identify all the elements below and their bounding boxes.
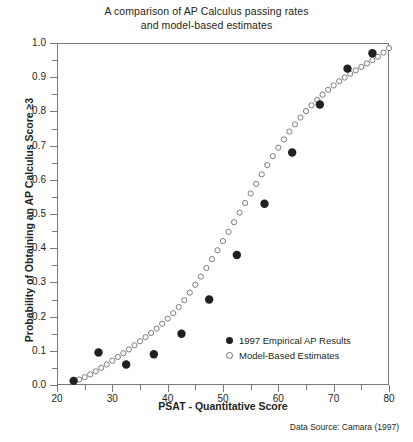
data-point-model-estimate [187, 290, 192, 295]
data-point-empirical [150, 350, 158, 358]
data-point-empirical [69, 377, 77, 385]
x-tick-minor [195, 385, 196, 390]
data-point-model-estimate [160, 321, 165, 326]
data-point-model-estimate [126, 347, 131, 352]
chart-figure: A comparison of AP Calculus passing rate… [0, 0, 413, 442]
data-point-model-estimate [110, 358, 115, 363]
x-tick-minor [361, 385, 362, 390]
data-point-model-estimate [287, 129, 292, 134]
x-tick-minor [85, 385, 86, 390]
y-tick-major [50, 282, 57, 283]
data-point-model-estimate [254, 181, 259, 186]
data-point-model-estimate [209, 257, 214, 262]
data-point-empirical [260, 200, 268, 208]
data-point-empirical [288, 148, 296, 156]
data-point-model-estimate [99, 365, 104, 370]
data-point-model-estimate [309, 103, 314, 108]
data-point-model-estimate [176, 304, 181, 309]
source-note: Data Source: Camara (1997) [290, 422, 399, 432]
data-point-model-estimate [154, 326, 159, 331]
data-point-model-estimate [386, 46, 391, 51]
open-circle-icon [222, 352, 236, 359]
chart-title: A comparison of AP Calculus passing rate… [0, 5, 413, 32]
x-tick-minor [251, 385, 252, 390]
data-point-empirical [177, 330, 185, 338]
data-point-model-estimate [226, 229, 231, 234]
x-tick-minor [306, 385, 307, 390]
y-axis-label: Probability of Obtaining an AP Calculus … [23, 49, 35, 391]
y-tick-major [50, 77, 57, 78]
data-point-model-estimate [326, 87, 331, 92]
y-tick-major [50, 248, 57, 249]
data-point-model-estimate [265, 162, 270, 167]
legend-label-empirical: 1997 Empirical AP Results [236, 335, 351, 346]
data-point-model-estimate [231, 220, 236, 225]
data-point-model-estimate [364, 61, 369, 66]
x-tick-major [389, 385, 390, 392]
data-point-model-estimate [303, 108, 308, 113]
y-tick-major [50, 385, 57, 386]
data-point-model-estimate [93, 369, 98, 374]
data-point-model-estimate [248, 191, 253, 196]
data-point-model-estimate [243, 200, 248, 205]
y-tick-major [50, 180, 57, 181]
data-point-model-estimate [320, 92, 325, 97]
data-point-model-estimate [359, 64, 364, 69]
data-point-model-estimate [259, 172, 264, 177]
filled-circle-icon [222, 337, 236, 344]
y-tick-major [50, 43, 57, 44]
data-point-empirical [94, 348, 102, 356]
data-point-empirical [316, 100, 324, 108]
chart-legend: 1997 Empirical AP Results Model-Based Es… [222, 333, 351, 363]
y-tick-major [50, 111, 57, 112]
data-point-model-estimate [171, 311, 176, 316]
data-point-empirical [343, 64, 351, 72]
data-point-model-estimate [204, 265, 209, 270]
y-tick-major [50, 317, 57, 318]
chart-title-line-1: A comparison of AP Calculus passing rate… [104, 5, 308, 17]
legend-item-model: Model-Based Estimates [222, 348, 351, 363]
y-tick-major [50, 214, 57, 215]
x-tick-major [334, 385, 335, 392]
data-point-model-estimate [182, 298, 187, 303]
y-tick-major [50, 146, 57, 147]
data-point-model-estimate [143, 335, 148, 340]
data-point-model-estimate [82, 375, 87, 380]
data-point-model-estimate [337, 79, 342, 84]
data-point-model-estimate [331, 83, 336, 88]
data-point-model-estimate [270, 154, 275, 159]
data-point-model-estimate [198, 274, 203, 279]
legend-label-model: Model-Based Estimates [236, 350, 339, 361]
chart-title-line-2: and model-based estimates [0, 19, 413, 33]
data-point-model-estimate [165, 316, 170, 321]
data-point-model-estimate [353, 68, 358, 73]
data-point-model-estimate [281, 137, 286, 142]
x-tick-major [223, 385, 224, 392]
x-tick-major [112, 385, 113, 392]
x-axis-label: PSAT - Quantitative Score [57, 400, 389, 412]
data-point-model-estimate [215, 248, 220, 253]
data-point-model-estimate [193, 282, 198, 287]
data-point-model-estimate [88, 372, 93, 377]
data-point-model-estimate [381, 50, 386, 55]
data-point-model-estimate [298, 115, 303, 120]
y-tick-label: 1.0 [12, 38, 46, 48]
data-point-model-estimate [220, 238, 225, 243]
data-point-model-estimate [115, 354, 120, 359]
data-point-model-estimate [276, 145, 281, 150]
data-point-model-estimate [342, 75, 347, 80]
data-point-model-estimate [148, 330, 153, 335]
x-tick-major [168, 385, 169, 392]
data-point-model-estimate [237, 210, 242, 215]
data-point-model-estimate [104, 362, 109, 367]
data-point-model-estimate [121, 351, 126, 356]
data-point-model-estimate [370, 58, 375, 63]
legend-item-empirical: 1997 Empirical AP Results [222, 333, 351, 348]
data-point-model-estimate [137, 339, 142, 344]
data-point-empirical [233, 251, 241, 259]
data-point-empirical [122, 360, 130, 368]
data-point-model-estimate [132, 343, 137, 348]
data-point-empirical [205, 295, 213, 303]
x-tick-minor [140, 385, 141, 390]
y-tick-major [50, 351, 57, 352]
